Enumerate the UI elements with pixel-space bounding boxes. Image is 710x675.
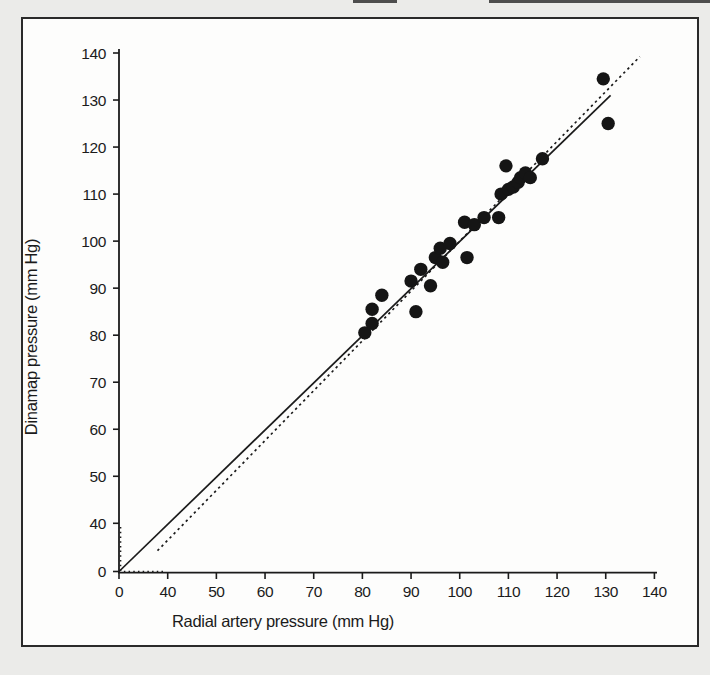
- x-tick-label: 40: [159, 583, 176, 600]
- x-tick-label: 70: [305, 583, 322, 600]
- data-point: [524, 171, 537, 184]
- data-point: [536, 152, 549, 165]
- x-tick-label: 110: [497, 583, 521, 600]
- y-tick-label: 100: [81, 233, 106, 250]
- x-tick-label: 90: [403, 583, 420, 600]
- x-tick-label: 140: [642, 583, 667, 600]
- data-point: [443, 237, 456, 250]
- y-tick-label: 110: [82, 186, 106, 203]
- data-point: [492, 211, 505, 224]
- y-tick-label: 40: [90, 515, 107, 532]
- y-tick-label: 70: [90, 374, 107, 391]
- x-tick-label: 100: [447, 583, 472, 600]
- data-point: [477, 211, 490, 224]
- data-point: [365, 317, 378, 330]
- data-point: [375, 289, 388, 302]
- x-tick-label: 130: [593, 583, 618, 600]
- x-tick-label: 80: [354, 583, 371, 600]
- data-points: [358, 72, 615, 339]
- y-tick-label: 60: [90, 421, 107, 438]
- plot-lines: [119, 57, 640, 572]
- regression-line: [157, 57, 639, 551]
- data-point: [597, 72, 610, 85]
- data-point: [404, 274, 417, 287]
- y-tick-label: 80: [90, 327, 107, 344]
- x-tick-label: 0: [115, 583, 124, 600]
- data-point: [424, 279, 437, 292]
- data-point: [409, 305, 422, 318]
- x-tick-label: 120: [545, 583, 570, 600]
- data-point: [436, 256, 449, 269]
- y-tick-label: 90: [90, 280, 107, 297]
- data-point: [414, 263, 427, 276]
- x-tick-label: 50: [208, 583, 225, 600]
- y-ticks: 0405060708090100110120130140: [81, 45, 119, 581]
- x-axis-title: Radial artery pressure (mm Hg): [172, 612, 394, 630]
- scatter-plot: 0405060708090100110120130140 04050607080…: [0, 0, 710, 675]
- data-point: [460, 251, 473, 264]
- x-ticks: 0405060708090100110120130140: [115, 573, 668, 600]
- y-tick-label: 50: [90, 468, 107, 485]
- y-tick-label: 0: [98, 563, 107, 580]
- y-axis-title: Dinamap pressure (mm Hg): [22, 239, 40, 435]
- y-tick-label: 130: [81, 92, 106, 109]
- data-point: [365, 303, 378, 316]
- y-tick-label: 140: [81, 45, 106, 62]
- y-tick-label: 120: [81, 139, 106, 156]
- data-point: [601, 117, 614, 130]
- data-point: [499, 159, 512, 172]
- x-tick-label: 60: [257, 583, 274, 600]
